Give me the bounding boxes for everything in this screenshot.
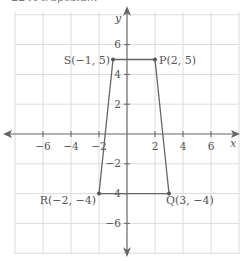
label-q: Q(3, −4)	[166, 194, 214, 207]
x-tick-label: 6	[208, 140, 215, 152]
y-tick-label: 4	[114, 68, 121, 80]
x-axis-label: x	[230, 137, 237, 150]
y-tick-label: −6	[106, 217, 122, 229]
y-tick-label: 6	[114, 38, 121, 50]
label-s: S(−1, 5)	[64, 54, 110, 67]
vertex-r	[97, 192, 101, 196]
y-axis	[123, 6, 131, 257]
y-axis-label: y	[114, 12, 122, 25]
coordinate-plane: −6 −4 −2 2 4 6 6 4 2 −2 −4 −6 x y S(−1, …	[0, 0, 242, 261]
x-axis	[3, 130, 240, 138]
vertex-s	[111, 58, 115, 62]
x-tick-label: −6	[35, 140, 51, 152]
trapezium-shape	[99, 60, 169, 194]
x-tick-label: 4	[180, 140, 187, 152]
x-tick-label: −4	[63, 140, 79, 152]
vertex-p	[153, 58, 157, 62]
label-p: P(2, 5)	[159, 54, 196, 67]
y-tick-label: 2	[114, 98, 121, 110]
y-tick-label: −2	[106, 157, 121, 169]
label-r: R(−2, −4)	[40, 194, 96, 207]
x-tick-label: 2	[152, 140, 159, 152]
